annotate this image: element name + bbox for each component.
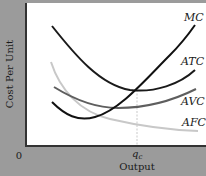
plot-area bbox=[26, 3, 206, 146]
x-axis-label: Output bbox=[119, 161, 155, 172]
cost-curves-chart: MC ATC AVC AFC Cost Per Unit Output 0 qc bbox=[0, 0, 206, 176]
qc-label: qc bbox=[132, 148, 142, 161]
y-axis-label: Cost Per Unit bbox=[4, 40, 15, 108]
atc-label: ATC bbox=[180, 55, 205, 68]
avc-label: AVC bbox=[180, 95, 205, 108]
origin-label: 0 bbox=[16, 150, 22, 161]
afc-label: AFC bbox=[181, 116, 206, 129]
mc-label: MC bbox=[183, 11, 204, 24]
